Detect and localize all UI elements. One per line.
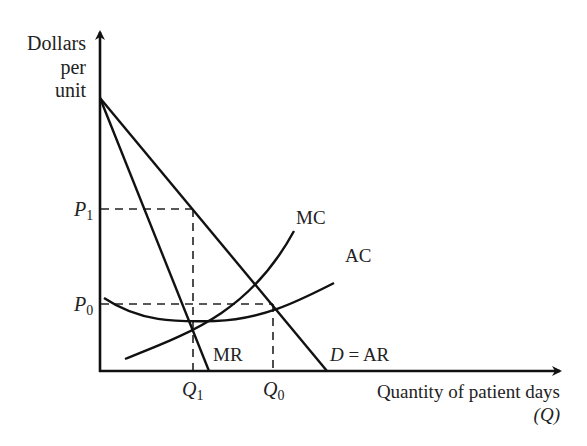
ac-label: AC <box>345 245 371 266</box>
quantity-label-q1: Q1 <box>182 378 203 403</box>
monopoly-diagram: Dollars per unit MC AC MR D = AR P1 P0 Q… <box>0 0 587 446</box>
x-axis-symbol: (Q) <box>534 404 560 426</box>
demand-label-ar: = AR <box>344 344 390 365</box>
dashed-guides <box>101 209 273 370</box>
mc-label: MC <box>296 207 326 228</box>
price-label-p0: P0 <box>73 293 93 318</box>
price-label-p1: P1 <box>73 198 93 223</box>
mr-label: MR <box>213 344 243 365</box>
demand-label: D = AR <box>329 344 390 365</box>
y-axis-label-line3: unit <box>55 79 87 101</box>
y-axis-label-line2: per <box>60 56 86 79</box>
mc-curve <box>125 231 294 359</box>
x-axis-label: Quantity of patient days <box>377 381 560 402</box>
demand-label-d: D <box>329 344 344 365</box>
y-axis-label-line1: Dollars <box>27 32 86 54</box>
quantity-label-q0: Q0 <box>263 378 284 403</box>
